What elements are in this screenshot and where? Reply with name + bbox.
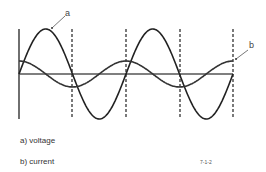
figure-reference: 7-1-2 <box>200 159 212 165</box>
waveform-diagram: a b <box>0 0 266 125</box>
label-b-dot <box>235 58 237 60</box>
label-a-dot <box>51 27 53 29</box>
label-a: a <box>65 8 70 18</box>
label-b-leader <box>236 50 248 59</box>
label-a-leader <box>52 16 65 28</box>
label-b: b <box>249 40 254 50</box>
legend-current: b) current <box>20 157 54 166</box>
legend-voltage: a) voltage <box>20 136 55 145</box>
